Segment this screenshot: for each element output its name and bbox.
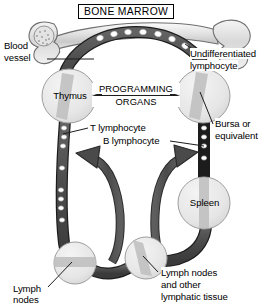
lymph-nodes-other-label-line1: Lymph nodes bbox=[161, 267, 217, 278]
organ-lymph-node-left bbox=[54, 242, 96, 284]
undifferentiated-lymphocyte-label-line1: Undifferentiated bbox=[190, 48, 256, 59]
bone-marrow-title: BONE MARROW bbox=[78, 4, 174, 19]
bursa-label-line2: equivalent bbox=[215, 130, 258, 141]
lymph-nodes-label-line2: nodes bbox=[13, 294, 39, 305]
programming-organs-label-line2: ORGANS bbox=[92, 96, 180, 107]
spleen-label: Spleen bbox=[182, 197, 227, 208]
programming-organs-label-line1: PROGRAMMING bbox=[92, 83, 180, 94]
blood-vessel-bottom-connector bbox=[92, 266, 132, 273]
lymphocyte-circulation-diagram: BONE MARROW Blood vessel Undifferentiate… bbox=[0, 0, 271, 305]
thymus-label: Thymus bbox=[47, 90, 93, 101]
organ-bursa bbox=[176, 69, 230, 123]
diagram-canvas bbox=[0, 0, 271, 305]
blood-vessel-label-line1: Blood bbox=[4, 40, 28, 51]
blood-vessel-label-line2: vessel bbox=[4, 52, 31, 63]
t-lymphocyte-label: T lymphocyte bbox=[90, 122, 146, 133]
lymph-nodes-label-line1: Lymph bbox=[13, 283, 41, 294]
b-lymphocyte-label: B lymphocyte bbox=[103, 135, 159, 146]
bursa-label-line1: Bursa or bbox=[215, 118, 250, 129]
lymph-nodes-other-label-line2: and other bbox=[161, 279, 201, 290]
lymph-nodes-other-label-line3: lymphatic tissue bbox=[161, 291, 228, 302]
undifferentiated-lymphocyte-label-line2: lymphocyte bbox=[190, 60, 238, 71]
